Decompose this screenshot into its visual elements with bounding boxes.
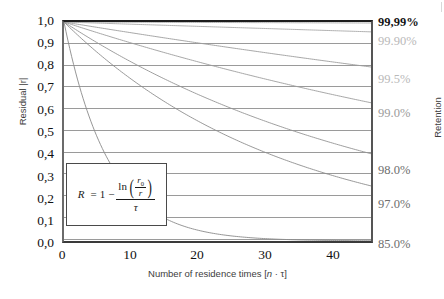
x-tick-label: 0: [42, 248, 82, 262]
formula-paren-open: (: [129, 176, 133, 198]
y-tick-label: 1,0: [8, 14, 54, 28]
formula-r0: r0: [135, 176, 146, 187]
formula-r0-sub: 0: [141, 180, 144, 187]
x-axis-title: Number of residence times [n · τ]: [62, 268, 373, 279]
x-axis-title-suffix: ]: [284, 268, 287, 279]
retention-label-995: 99.5%: [378, 73, 440, 86]
y-tick-label: 0,7: [8, 80, 54, 94]
curve-980: [64, 22, 371, 154]
formula-annotation-box: R = 1 − ln ( r0 r ): [66, 163, 167, 226]
formula-fraction: ln ( r0 r ) τ: [116, 176, 155, 213]
x-tick-label: 30: [245, 248, 285, 262]
formula-ln: ln: [118, 181, 127, 192]
x-axis-title-prefix: Number of residence times [: [148, 268, 267, 279]
x-tick-label: 10: [110, 248, 150, 262]
curve-995: [64, 22, 371, 67]
retention-label-850: 85.0%: [378, 238, 440, 251]
y-tick-label: 0,6: [8, 103, 54, 117]
formula-numerator: ln ( r0 r ): [116, 176, 155, 199]
curve-990: [64, 22, 371, 103]
formula-tau: τ: [132, 200, 140, 213]
retention-label-980: 98.0%: [378, 164, 440, 177]
formula-one: 1: [100, 188, 106, 200]
y-tick-label: 0,1: [8, 214, 54, 228]
retention-label-9990: 99.90%: [378, 35, 440, 48]
curve-9999: [64, 22, 371, 23]
y-tick-label: 0,4: [8, 147, 54, 161]
retention-label-990: 99.0%: [378, 107, 440, 120]
corner-mark: [441, 2, 442, 12]
formula-expression: R = 1 − ln ( r0 r ): [78, 176, 156, 213]
formula-r: r: [137, 188, 145, 198]
x-tick-label: 20: [177, 248, 217, 262]
y-tick-label: 0,8: [8, 58, 54, 72]
formula-equals: =: [90, 188, 96, 200]
y-tick-label: 0,2: [8, 192, 54, 206]
y-tick-label: 0,9: [8, 36, 54, 50]
curve-9990: [64, 22, 371, 32]
formula-paren-close: ): [147, 176, 151, 198]
formula-lhs: R: [78, 188, 85, 200]
formula-log-term: ln ( r0 r ): [118, 176, 153, 198]
retention-label-970: 97.0%: [378, 198, 440, 211]
formula-minus: −: [108, 188, 114, 200]
curve-970: [64, 22, 371, 186]
y-tick-label: 0,3: [8, 170, 54, 184]
y-tick-label: 0,5: [8, 125, 54, 139]
retention-residual-chart: 1,0 0,9 0,8 0,7 0,6 0,5 0,4 0,3 0,2 0,1 …: [0, 0, 444, 299]
retention-label-9999: 99,99%: [378, 16, 440, 29]
formula-inner-fraction: r0 r: [135, 176, 146, 198]
x-axis-title-mid: ·: [272, 268, 280, 279]
x-tick-label: 40: [313, 248, 353, 262]
y-axis-title: Residual |r|: [17, 42, 28, 162]
